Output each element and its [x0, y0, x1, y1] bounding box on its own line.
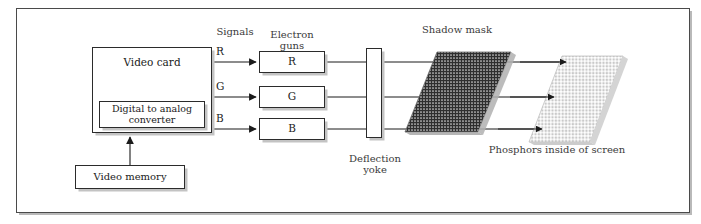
dac-box[interactable]: Digital to analog converter [99, 101, 205, 128]
electron-gun-red-label: R [288, 56, 296, 68]
video-memory-box[interactable]: Video memory [75, 165, 185, 189]
diagram-canvas: Video card Digital to analog converter V… [0, 0, 701, 224]
electron-gun-blue-box[interactable]: B [259, 118, 325, 140]
electron-gun-green-label: G [288, 91, 296, 103]
electron-guns-label: Electron guns [261, 18, 323, 52]
video-card-label: Video card [123, 57, 180, 69]
video-memory-label: Video memory [93, 171, 166, 182]
signals-label: Signals [207, 26, 263, 37]
phosphors-label: Phosphors inside of screen [477, 144, 637, 155]
shadow-mask-label: Shadow mask [409, 24, 505, 35]
shadow-mask-bottom-edge [405, 132, 483, 135]
signal-r-label: R [216, 46, 230, 58]
deflection-yoke-label: Deflection yoke [340, 142, 410, 176]
signal-b-label: B [216, 113, 230, 125]
signal-g-label: G [216, 81, 230, 93]
dac-label: Digital to analog converter [112, 104, 192, 125]
electron-gun-green-box[interactable]: G [259, 86, 325, 108]
electron-gun-blue-label: B [288, 123, 296, 135]
deflection-yoke-box[interactable] [366, 48, 382, 138]
electron-gun-red-box[interactable]: R [259, 51, 325, 73]
